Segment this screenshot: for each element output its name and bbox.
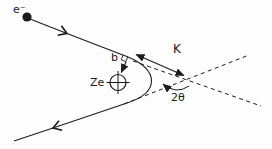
- nucleus-label: Ze: [90, 76, 105, 89]
- scattering-angle-label: 2θ: [171, 91, 185, 104]
- incoming-asymptote-dashed-line: [133, 61, 261, 106]
- outgoing-asymptote-dashed-line: [124, 55, 249, 104]
- impact-parameter-arrow: [121, 62, 126, 73]
- scattering-angle-arc: [163, 84, 189, 90]
- electron-label: e⁻: [13, 3, 26, 16]
- trajectory-curve: [127, 57, 152, 103]
- scattering-diagram-canvas: e⁻ b Ze K 2θ: [0, 0, 272, 149]
- right-angle-marker: [121, 55, 128, 62]
- impact-parameter-label: b: [111, 51, 118, 64]
- momentum-transfer-label: K: [173, 42, 182, 56]
- nucleus-symbol: [107, 71, 130, 94]
- scattering-diagram: e⁻ b Ze K 2θ: [0, 0, 272, 149]
- outgoing-trajectory-line: [14, 103, 127, 141]
